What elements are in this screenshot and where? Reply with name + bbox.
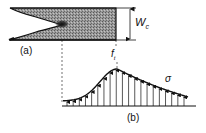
panel-b-label: (b) — [127, 113, 139, 123]
width-label: Wc — [135, 17, 149, 30]
specimen-panel-a — [9, 8, 116, 40]
stress-distribution-panel-b — [62, 69, 196, 106]
crack-tip-zone — [55, 20, 69, 28]
fracture-diagram — [0, 0, 206, 133]
width-dimension — [116, 8, 136, 40]
panel-a-label: (a) — [20, 46, 32, 56]
stress-label: σ — [165, 74, 171, 84]
tensile-strength-label: ft — [111, 49, 115, 61]
